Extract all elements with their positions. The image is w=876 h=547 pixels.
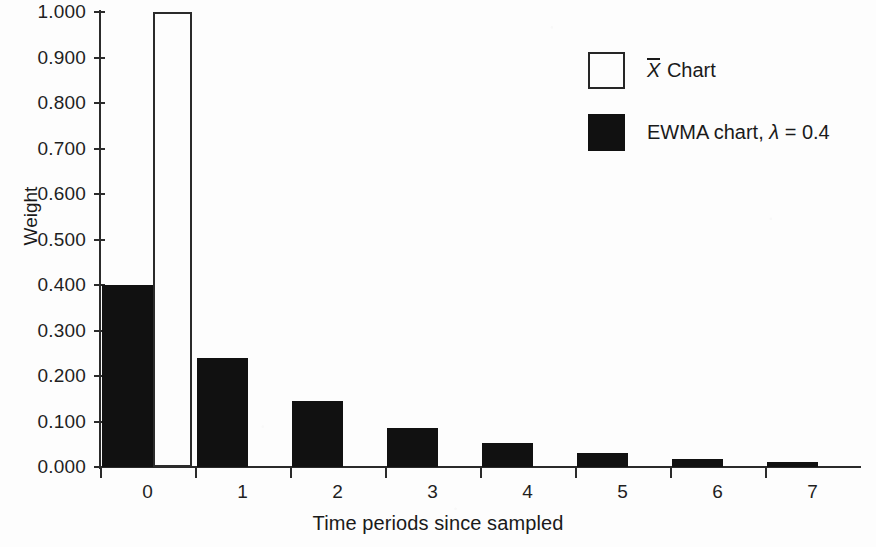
bar [672, 459, 723, 468]
x-axis-tick [480, 467, 482, 478]
y-axis-tick-label: 0.500 [0, 229, 86, 251]
x-axis-tick [100, 467, 102, 478]
legend-item: X Chart [588, 50, 830, 90]
y-axis-tick-label: 0.400 [0, 274, 86, 296]
y-axis-title: Weight [2, 205, 32, 227]
legend-label-suffix: = 0.4 [779, 121, 830, 143]
bar [102, 285, 153, 467]
legend-label-symbol: λ [769, 121, 779, 143]
legend-label: EWMA chart, λ = 0.4 [647, 122, 830, 142]
x-axis-tick [670, 467, 672, 478]
x-axis-tick-label: 3 [427, 481, 438, 503]
x-axis-tick-label: 4 [522, 481, 533, 503]
x-axis-tick [765, 467, 767, 478]
x-axis-tick-label: 2 [332, 481, 343, 503]
x-axis-tick [385, 467, 387, 478]
x-axis-tick [290, 467, 292, 478]
y-axis-tick-label: 0.900 [0, 47, 86, 69]
legend-label-symbol: X [647, 60, 661, 80]
y-axis-tick-label: 0.000 [0, 456, 86, 478]
bar [577, 453, 628, 467]
x-axis-tick-label: 0 [142, 481, 153, 503]
y-axis-tick-label: 0.300 [0, 320, 86, 342]
bar [153, 12, 192, 467]
y-axis-tick-label: 1.000 [0, 1, 86, 23]
y-axis-tick-label: 0.200 [0, 365, 86, 387]
x-axis-tick-label: 7 [807, 481, 818, 503]
legend-swatch [588, 52, 625, 89]
x-axis-tick-label: 1 [237, 481, 248, 503]
x-axis-tick-label: 6 [712, 481, 723, 503]
y-axis-tick-label: 0.800 [0, 92, 86, 114]
bar [482, 443, 533, 467]
legend-label-prefix: EWMA chart, [647, 121, 769, 143]
x-axis-title: Time periods since sampled [0, 512, 876, 535]
legend-swatch [588, 114, 625, 151]
chart-figure: Weight 1.0000.9000.8000.7000.6000.5000.4… [0, 0, 876, 547]
x-axis-tick [575, 467, 577, 478]
y-axis-tick-label: 0.600 [0, 183, 86, 205]
y-axis-tick-label: 0.100 [0, 411, 86, 433]
bar [197, 358, 248, 467]
bar [292, 401, 343, 467]
legend-label: X Chart [647, 60, 716, 80]
bar [387, 428, 438, 467]
legend-item: EWMA chart, λ = 0.4 [588, 112, 830, 152]
bar [767, 462, 818, 467]
x-axis-tick-label: 5 [617, 481, 628, 503]
y-axis-tick-label: 0.700 [0, 138, 86, 160]
legend: X ChartEWMA chart, λ = 0.4 [588, 50, 830, 174]
x-axis-tick [195, 467, 197, 478]
legend-label-suffix: Chart [661, 59, 715, 81]
